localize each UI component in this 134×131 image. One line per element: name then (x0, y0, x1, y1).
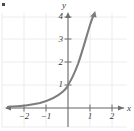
y-axis (65, 12, 70, 127)
y-tick-label-4: 4 (57, 12, 63, 21)
grid-lines (2, 13, 127, 127)
x-tick-label-1: 1 (85, 112, 95, 121)
y-tick-label-1: 1 (57, 80, 63, 89)
x-axis-arrowhead (118, 105, 124, 110)
exponential-graph-figure: y x 4 3 2 1 −2 −1 1 2 (0, 0, 134, 131)
x-tick-label-minus-1: −1 (39, 112, 53, 121)
exponential-curve (8, 11, 97, 107)
x-tick-label-2: 2 (107, 112, 117, 121)
y-tick-label-2: 2 (57, 58, 63, 67)
curve-arrowhead (90, 11, 96, 17)
x-tick-label-minus-2: −2 (17, 112, 31, 121)
y-tick-label-3: 3 (57, 35, 63, 44)
x-axis-label: x (127, 104, 131, 113)
y-axis-label: y (62, 1, 66, 10)
